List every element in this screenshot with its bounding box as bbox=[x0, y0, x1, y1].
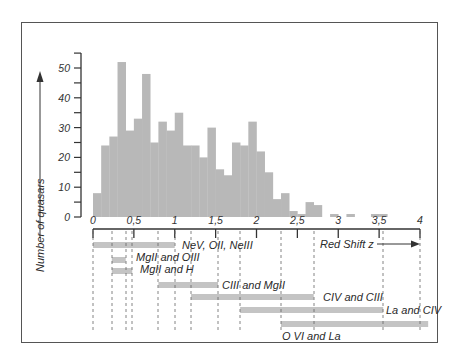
histogram-bar bbox=[126, 131, 134, 217]
y-axis: 01020304050 bbox=[57, 53, 81, 223]
line-range-label: MgII and H bbox=[140, 263, 194, 275]
x-axis-label-group: Red Shift z bbox=[320, 238, 420, 250]
histogram-bar bbox=[240, 145, 248, 217]
histogram-bar bbox=[207, 128, 215, 217]
x-tick-label: 2 bbox=[253, 214, 260, 226]
x-tick-label: 0,5 bbox=[127, 214, 142, 226]
y-tick-label: 50 bbox=[58, 62, 70, 74]
histogram-bar bbox=[346, 214, 354, 217]
right-arrow-icon bbox=[411, 241, 420, 248]
histogram-bar bbox=[281, 193, 289, 217]
line-range-label: CIII and MgII bbox=[222, 279, 285, 291]
y-axis-label: Number of quasars bbox=[34, 178, 46, 272]
histogram-bar bbox=[191, 145, 199, 217]
x-tick-label: 0 bbox=[90, 214, 96, 226]
histogram-bar bbox=[167, 131, 175, 217]
histogram-bar bbox=[101, 145, 109, 217]
x-tick-label: 4 bbox=[417, 214, 423, 226]
line-range-label: NeV, OII, NeIII bbox=[182, 239, 253, 251]
histogram-bar bbox=[314, 205, 322, 217]
line-range-label: La and CIV bbox=[386, 304, 443, 316]
x-tick-label: 1,5 bbox=[208, 214, 223, 226]
up-arrow-icon bbox=[37, 71, 44, 82]
histogram-bar bbox=[150, 143, 158, 218]
histogram-bars bbox=[93, 62, 388, 217]
line-range-bar bbox=[281, 321, 428, 327]
histogram-bar bbox=[248, 122, 256, 217]
line-range-label: O VI and La bbox=[282, 330, 341, 342]
line-range-bar bbox=[93, 242, 175, 248]
line-range-label: MgII and OIII bbox=[136, 251, 200, 263]
histogram-bar bbox=[257, 151, 265, 217]
y-tick-label: 0 bbox=[64, 211, 70, 223]
line-range-bar bbox=[158, 282, 218, 288]
histogram-bar bbox=[158, 122, 166, 217]
line-range-bar bbox=[112, 257, 126, 263]
histogram-bar bbox=[306, 202, 314, 217]
x-axis: 00,511,522,533,54 bbox=[90, 214, 423, 238]
histogram-bar bbox=[224, 175, 232, 217]
y-axis-label-group: Number of quasars bbox=[34, 71, 46, 272]
histogram-bar bbox=[232, 143, 240, 218]
histogram-bar bbox=[183, 145, 191, 217]
y-tick-label: 30 bbox=[58, 122, 70, 134]
histogram-bar bbox=[175, 113, 183, 217]
x-tick-label: 3,5 bbox=[372, 214, 387, 226]
histogram-bar bbox=[142, 74, 150, 217]
x-tick-label: 3 bbox=[335, 214, 341, 226]
line-range-bar bbox=[112, 268, 132, 274]
histogram-bar bbox=[265, 172, 273, 217]
quasar-redshift-histogram: 01020304050 00,511,522,533,54 NeV, OII, … bbox=[0, 0, 457, 364]
histogram-bar bbox=[216, 169, 224, 217]
y-tick-label: 10 bbox=[58, 181, 70, 193]
x-tick-label: 1 bbox=[172, 214, 178, 226]
histogram-bar bbox=[109, 137, 117, 217]
histogram-bar bbox=[118, 62, 126, 217]
y-tick-label: 40 bbox=[58, 92, 70, 104]
line-range-label: CIV and CIII bbox=[323, 291, 383, 303]
x-tick-label: 2,5 bbox=[289, 214, 305, 226]
emission-line-ranges: NeV, OII, NeIIIMgII and OIIIMgII and HCI… bbox=[93, 231, 443, 342]
histogram-bar bbox=[199, 157, 207, 217]
x-axis-label: Red Shift z bbox=[320, 238, 374, 250]
y-tick-label: 20 bbox=[57, 151, 70, 163]
histogram-bar bbox=[273, 199, 281, 217]
line-range-bar bbox=[191, 294, 314, 300]
histogram-bar bbox=[134, 119, 142, 217]
line-range-bar bbox=[240, 307, 383, 313]
